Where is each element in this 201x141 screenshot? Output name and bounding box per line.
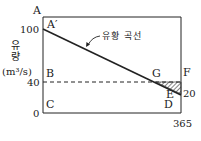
point-e-label: E [166,89,174,100]
y-axis-label: 유 량 [8,40,22,62]
point-f-label: F [183,67,191,78]
flow-duration-diagram: A A′ B C D E F G 100 40 0 20 365 유 량 (m³… [0,0,201,141]
point-b-label: B [46,68,54,79]
y-axis-unit: (m³/s) [2,66,32,77]
y-tick-100: 100 [20,24,39,35]
point-a-prime-label: A′ [47,19,57,30]
y-axis-label-line1: 유 [8,40,22,51]
y-tick-0: 0 [33,108,39,119]
y-axis-label-line2: 량 [8,51,22,62]
curve-label: 유황 곡선 [102,31,142,42]
y-tick-40: 40 [27,77,40,88]
point-a-label: A [33,5,41,16]
point-c-label: C [46,99,54,110]
x-tick-365: 365 [173,118,192,129]
right-value-20: 20 [183,88,196,99]
point-g-label: G [152,68,161,79]
label-leader-arrow-icon [88,36,100,45]
